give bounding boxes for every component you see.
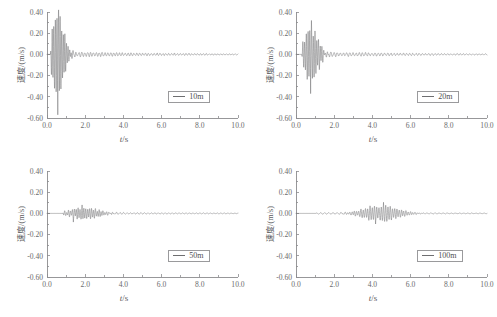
y-axis-label-text: 速度/(m/s) [263,47,275,83]
y-tick-label: -0.20 [27,230,43,239]
y-axis-label: 速度/(m/s) [14,15,26,115]
waveform-50m [47,205,238,222]
x-tick-label: 2.0 [80,280,90,289]
subplot-20m: 0.02.04.06.08.010.0-0.60-0.40-0.200.000.… [249,0,497,158]
x-axis-label: t/s [0,134,248,144]
x-tick-label: 6.0 [406,280,416,289]
y-tick-label: 0.20 [30,188,43,197]
y-axis-label: 速度/(m/s) [14,174,26,274]
x-tick-label: 10.0 [480,280,493,289]
y-tick-label: -0.40 [276,252,292,261]
x-axis-label: t/s [0,293,248,303]
y-tick-label: -0.60 [27,273,43,282]
waveform-20m [296,20,487,93]
y-tick-label: -0.40 [276,93,292,102]
y-tick-label: 0.00 [30,209,43,218]
x-axis-label-unit: /s [122,293,128,303]
figure-velocity-time-histories: 0.02.04.06.08.010.0-0.60-0.40-0.200.000.… [0,0,497,317]
x-axis-label: t/s [249,293,497,303]
legend-label: 100m [438,252,456,260]
x-tick-label: 8.0 [444,121,454,130]
y-tick-label: 0.20 [279,188,292,197]
x-tick-label: 4.0 [119,121,129,130]
legend-line-sample-icon [422,255,434,256]
x-tick-label: 8.0 [444,280,454,289]
x-tick-label: 10.0 [231,121,244,130]
x-tick-label: 10.0 [231,280,244,289]
y-tick-label: 0.40 [279,167,292,176]
legend-label: 10m [189,93,203,101]
legend-10m[interactable]: 10m [168,91,209,103]
y-tick-label: -0.40 [27,93,43,102]
legend-line-sample-icon [173,96,185,97]
subplot-10m: 0.02.04.06.08.010.0-0.60-0.40-0.200.000.… [0,0,248,158]
x-tick-label: 8.0 [195,121,205,130]
y-tick-label: -0.60 [276,114,292,123]
legend-20m[interactable]: 20m [417,91,458,103]
x-axis-label-unit: /s [371,134,377,144]
x-tick-label: 4.0 [368,280,378,289]
x-tick-label: 4.0 [119,280,129,289]
x-axis-label: t/s [249,134,497,144]
x-tick-label: 2.0 [80,121,90,130]
x-tick-label: 6.0 [157,121,167,130]
subplot-100m: 0.02.04.06.08.010.0-0.60-0.40-0.200.000.… [249,159,497,317]
legend-line-sample-icon [173,255,185,256]
waveform-100m [296,202,487,224]
x-tick-label: 6.0 [157,280,167,289]
y-axis-label: 速度/(m/s) [263,15,275,115]
y-tick-label: -0.60 [27,114,43,123]
x-tick-label: 0.0 [42,121,52,130]
x-axis-label-unit: /s [122,134,128,144]
y-tick-label: 0.40 [30,8,43,17]
x-tick-label: 0.0 [291,121,301,130]
y-tick-label: -0.20 [276,71,292,80]
y-tick-label: 0.20 [30,29,43,38]
subplot-50m: 0.02.04.06.08.010.0-0.60-0.40-0.200.000.… [0,159,248,317]
legend-100m[interactable]: 100m [417,250,462,262]
y-tick-label: -0.60 [276,273,292,282]
y-tick-label: 0.20 [279,29,292,38]
y-axis-label-text: 速度/(m/s) [14,47,26,83]
legend-50m[interactable]: 50m [168,250,209,262]
y-tick-label: -0.20 [276,230,292,239]
y-tick-label: 0.40 [279,8,292,17]
y-tick-label: -0.20 [27,71,43,80]
legend-line-sample-icon [422,96,434,97]
y-tick-label: 0.00 [279,50,292,59]
x-tick-label: 0.0 [291,280,301,289]
legend-label: 20m [438,93,452,101]
y-tick-label: 0.00 [279,209,292,218]
y-tick-label: 0.40 [30,167,43,176]
y-tick-label: 0.00 [30,50,43,59]
legend-label: 50m [189,252,203,260]
x-tick-label: 2.0 [329,280,339,289]
x-axis-label-unit: /s [371,293,377,303]
x-tick-label: 2.0 [329,121,339,130]
x-tick-label: 0.0 [42,280,52,289]
x-tick-label: 10.0 [480,121,493,130]
y-axis-label: 速度/(m/s) [263,174,275,274]
y-axis-label-text: 速度/(m/s) [263,206,275,242]
x-tick-label: 8.0 [195,280,205,289]
y-axis-label-text: 速度/(m/s) [14,206,26,242]
x-tick-label: 4.0 [368,121,378,130]
y-tick-label: -0.40 [27,252,43,261]
x-tick-label: 6.0 [406,121,416,130]
